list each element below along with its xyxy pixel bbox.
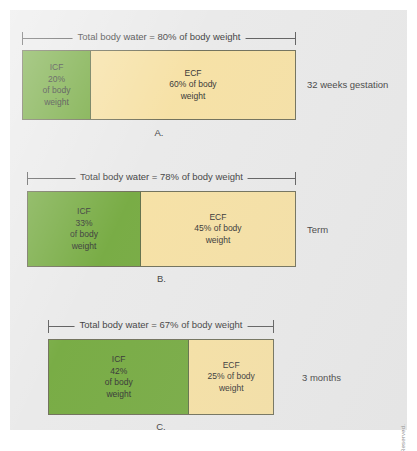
segment-ecf-b: ECF 45% of body weight xyxy=(141,192,295,266)
icf-label-of-body: of body xyxy=(43,85,71,97)
panel-caption-a: A. xyxy=(22,127,296,138)
icf-label-weight: weight xyxy=(106,389,131,401)
panel-caption-b: B. xyxy=(27,273,296,284)
segment-icf-a: ICF 20% of body weight xyxy=(23,51,91,119)
bar-a: ICF 20% of body weight ECF 60% of body w… xyxy=(22,50,296,120)
segment-ecf-a: ECF 60% of body weight xyxy=(91,51,295,119)
icf-label-of-body: of body xyxy=(70,229,98,241)
icf-label-of-body: of body xyxy=(105,377,133,389)
bar-b: ICF 33% of body weight ECF 45% of body w… xyxy=(27,191,296,267)
bar-c: ICF 42% of body weight ECF 25% of body w… xyxy=(48,339,274,415)
segment-icf-c: ICF 42% of body weight xyxy=(49,340,189,414)
icf-label-weight: weight xyxy=(44,97,69,109)
segment-icf-b: ICF 33% of body weight xyxy=(28,192,141,266)
figure-canvas: Total body water = 80% of body weight IC… xyxy=(10,10,407,430)
bracket-b: Total body water = 78% of body weight xyxy=(27,172,296,186)
icf-label-percent: 33% xyxy=(75,218,92,230)
ecf-label-percent: 45% of body xyxy=(194,223,241,235)
icf-label-name: ICF xyxy=(50,62,64,74)
age-label-b: Term xyxy=(307,224,328,235)
bracket-label-c: Total body water = 67% of body weight xyxy=(75,318,248,331)
panel-caption-c: C. xyxy=(48,421,274,432)
ecf-label-weight: weight xyxy=(206,235,231,247)
ecf-label-weight: weight xyxy=(219,383,244,395)
icf-label-percent: 42% xyxy=(110,366,127,378)
copyright-notice: Copyright © 2015 Cengage Learning®. All … xyxy=(399,424,406,451)
ecf-label-weight: weight xyxy=(181,91,206,103)
bracket-a: Total body water = 80% of body weight xyxy=(22,32,296,46)
icf-label-percent: 20% xyxy=(48,74,65,86)
ecf-label-name: ECF xyxy=(223,360,240,372)
ecf-label-name: ECF xyxy=(209,212,226,224)
icf-label-name: ICF xyxy=(112,354,126,366)
bracket-label-a: Total body water = 80% of body weight xyxy=(73,30,246,43)
icf-label-name: ICF xyxy=(77,206,91,218)
ecf-label-percent: 25% of body xyxy=(208,371,255,383)
segment-ecf-c: ECF 25% of body weight xyxy=(189,340,273,414)
ecf-label-name: ECF xyxy=(185,68,202,80)
ecf-label-percent: 60% of body xyxy=(169,79,216,91)
bracket-label-b: Total body water = 78% of body weight xyxy=(75,170,248,183)
age-label-c: 3 months xyxy=(302,372,341,383)
icf-label-weight: weight xyxy=(72,241,97,253)
age-label-a: 32 weeks gestation xyxy=(307,79,388,90)
bracket-c: Total body water = 67% of body weight xyxy=(48,320,274,334)
